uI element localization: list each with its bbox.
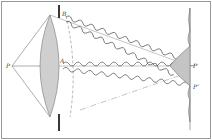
label-B: B: [61, 10, 67, 17]
diffraction-diagram: P B A P′ P″: [0, 0, 212, 140]
label-P-double-prime: P″: [192, 83, 200, 90]
wavefront-arc: [66, 16, 73, 117]
convergence-lines: [50, 15, 190, 110]
lens: [40, 15, 59, 117]
intensity-pattern: [170, 8, 190, 122]
diagram-canvas: P B A P′ P″: [0, 0, 212, 140]
wave-rays: [63, 15, 195, 86]
label-P: P: [5, 62, 11, 69]
label-P-prime: P′: [192, 62, 199, 69]
label-A: A: [59, 57, 65, 64]
